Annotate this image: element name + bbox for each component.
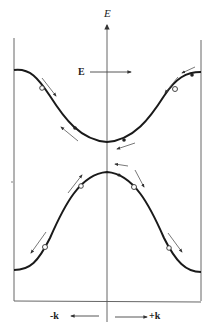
motion-arrow — [115, 164, 128, 166]
hole-marker — [43, 245, 48, 250]
pos-k-label: +k — [149, 311, 160, 321]
motion-arrow — [117, 143, 135, 149]
energy-axis-label: E — [104, 8, 111, 19]
lower-band-curve — [14, 172, 201, 272]
hole-marker — [132, 185, 137, 190]
stray-tick — [11, 181, 12, 182]
electron-marker — [190, 73, 194, 77]
electron-marker — [122, 138, 126, 142]
electron-marker — [73, 126, 77, 130]
electric-field-label: E — [78, 67, 85, 77]
bottom-baseline — [14, 301, 201, 302]
hole-marker — [79, 184, 84, 189]
electron-marker — [117, 173, 120, 176]
motion-arrow — [135, 170, 144, 187]
hole-marker — [167, 246, 172, 251]
neg-k-label: -k — [50, 311, 59, 321]
band-diagram — [0, 0, 212, 333]
upper-band-curve — [14, 70, 201, 142]
hole-marker — [40, 86, 45, 91]
hole-marker — [173, 87, 178, 92]
